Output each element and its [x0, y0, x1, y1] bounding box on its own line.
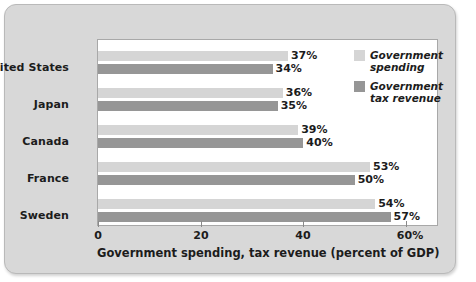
legend-label-government-tax-revenue: Government tax revenue [370, 80, 450, 104]
bar-spending-sweden [98, 199, 375, 209]
x-tick-0 [98, 221, 99, 227]
bar-revenue-united-states [98, 64, 273, 74]
bar-spending-france [98, 162, 370, 172]
x-tick-label-20: 20 [193, 229, 208, 242]
x-tick-label-60: 60% [397, 229, 423, 242]
x-axis-title: Government spending, tax revenue (percen… [97, 246, 438, 260]
legend-swatch-revenue-icon [354, 81, 365, 92]
bar-value-spending-sweden: 54% [375, 199, 404, 209]
bar-value-revenue-canada: 40% [303, 138, 332, 148]
bar-revenue-canada [98, 138, 303, 148]
bar-value-revenue-france: 50% [355, 175, 384, 185]
category-label-united-states: United States [0, 62, 69, 73]
figure-panel: United States Japan Canada France Sweden… [4, 4, 456, 274]
bar-value-revenue-japan: 35% [278, 101, 307, 111]
bar-value-spending-canada: 39% [298, 125, 327, 135]
x-tick-40 [303, 221, 304, 227]
x-tick-label-0: 0 [94, 229, 102, 242]
category-label-france: France [0, 173, 69, 184]
x-tick-label-40: 40 [295, 229, 310, 242]
x-tick-60 [406, 221, 407, 227]
bar-value-spending-japan: 36% [283, 88, 312, 98]
category-label-canada: Canada [0, 136, 69, 147]
bar-value-spending-france: 53% [370, 162, 399, 172]
legend-swatch-spending-icon [354, 50, 365, 61]
bar-value-spending-united-states: 37% [288, 51, 317, 61]
bar-value-revenue-united-states: 34% [273, 64, 302, 74]
legend-label-government-spending: Government spending [370, 49, 450, 73]
category-label-sweden: Sweden [0, 210, 69, 221]
legend-item-government-spending: Government spending [354, 49, 450, 73]
chart-legend: Government spending Government tax reven… [354, 49, 450, 111]
bar-spending-japan [98, 88, 283, 98]
x-tick-20 [201, 221, 202, 227]
bar-revenue-france [98, 175, 355, 185]
bar-spending-united-states [98, 51, 288, 61]
legend-item-government-tax-revenue: Government tax revenue [354, 80, 450, 104]
bar-spending-canada [98, 125, 298, 135]
category-label-japan: Japan [0, 99, 69, 110]
bar-revenue-sweden [98, 212, 391, 222]
bar-revenue-japan [98, 101, 278, 111]
